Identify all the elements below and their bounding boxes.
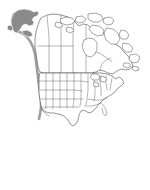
florida-peninsula — [101, 103, 107, 116]
alaska-region[interactable] — [7, 9, 39, 37]
map-figure — [0, 0, 150, 190]
united-states-region[interactable] — [39, 73, 124, 126]
north-america-map[interactable] — [0, 0, 150, 190]
